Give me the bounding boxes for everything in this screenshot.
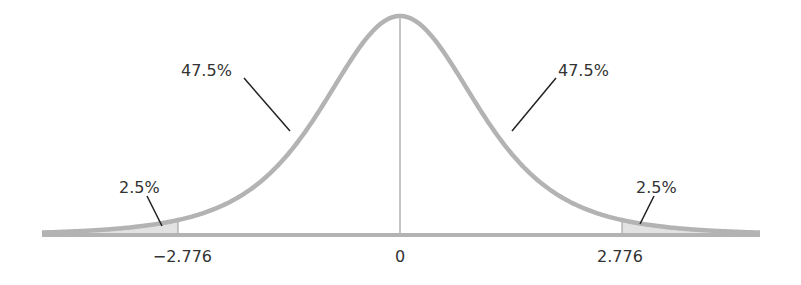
label-right-tail: 2.5% [636, 178, 677, 197]
leader-left-center [244, 78, 290, 131]
leader-left-tail [147, 196, 162, 226]
label-left-tail: 2.5% [119, 178, 160, 197]
t-distribution-chart: 47.5% 47.5% 2.5% 2.5% −2.776 0 2.776 [0, 0, 801, 285]
tick-label-right: 2.776 [597, 247, 643, 266]
leader-right-center [512, 78, 556, 131]
label-right-center: 47.5% [558, 61, 609, 80]
leader-right-tail [640, 196, 654, 224]
tick-label-zero: 0 [395, 247, 405, 266]
label-left-center: 47.5% [181, 61, 232, 80]
tick-label-left: −2.776 [153, 247, 212, 266]
